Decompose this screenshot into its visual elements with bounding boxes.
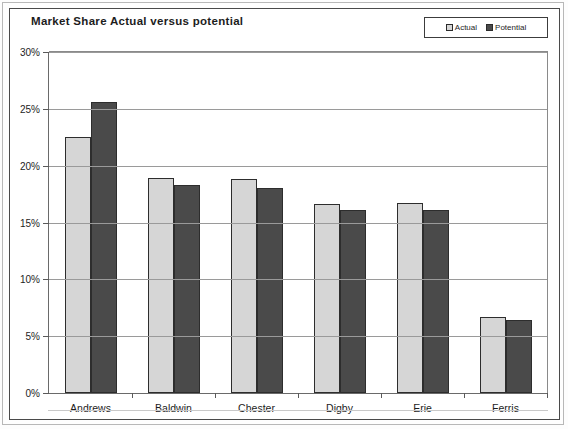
gridline bbox=[49, 336, 547, 337]
x-axis-tick bbox=[464, 393, 465, 398]
bar-baldwin-actual bbox=[148, 178, 174, 393]
legend-label-actual: Actual bbox=[455, 24, 477, 32]
x-axis-label: Digby bbox=[326, 402, 353, 414]
y-axis-tick bbox=[43, 223, 49, 224]
legend-swatch-potential-icon bbox=[486, 24, 493, 31]
y-axis-label: 10% bbox=[20, 274, 40, 285]
bar-digby-actual bbox=[314, 204, 340, 393]
x-axis-tick bbox=[298, 393, 299, 398]
y-axis-label: 20% bbox=[20, 160, 40, 171]
plot-area: AndrewsBaldwinChesterDigbyErieFerris 0%5… bbox=[48, 52, 547, 394]
x-axis-label: Erie bbox=[413, 402, 432, 414]
x-axis-tick bbox=[215, 393, 216, 398]
y-axis-tick bbox=[43, 336, 49, 337]
bar-baldwin-potential bbox=[174, 185, 200, 393]
x-axis-tick bbox=[381, 393, 382, 398]
x-axis-label: Chester bbox=[238, 402, 275, 414]
y-axis-label: 30% bbox=[20, 47, 40, 58]
bar-ferris-potential bbox=[506, 320, 532, 393]
gridline bbox=[49, 279, 547, 280]
gridline bbox=[49, 109, 547, 110]
y-axis-tick bbox=[43, 109, 49, 110]
bar-andrews-potential bbox=[91, 102, 117, 393]
y-axis-label: 5% bbox=[26, 331, 40, 342]
plot-right-border bbox=[547, 51, 548, 393]
bar-erie-potential bbox=[423, 210, 449, 393]
legend-item-potential: Potential bbox=[486, 24, 526, 32]
x-axis-label: Andrews bbox=[70, 402, 111, 414]
legend-label-potential: Potential bbox=[495, 24, 526, 32]
x-axis-tick bbox=[547, 393, 548, 398]
chart-title: Market Share Actual versus potential bbox=[31, 15, 243, 27]
y-axis-label: 0% bbox=[26, 388, 40, 399]
x-axis-label: Ferris bbox=[492, 402, 519, 414]
legend-item-actual: Actual bbox=[446, 24, 477, 32]
y-axis-tick bbox=[43, 166, 49, 167]
bar-ferris-actual bbox=[480, 317, 506, 393]
y-axis-tick bbox=[43, 52, 49, 53]
y-axis-tick bbox=[43, 393, 49, 394]
bar-andrews-actual bbox=[65, 137, 91, 393]
x-axis-tick bbox=[132, 393, 133, 398]
bar-digby-potential bbox=[340, 210, 366, 393]
bar-chester-actual bbox=[231, 179, 257, 393]
x-axis-label: Baldwin bbox=[155, 402, 192, 414]
y-axis-label: 25% bbox=[20, 103, 40, 114]
bar-erie-actual bbox=[397, 203, 423, 393]
gridline bbox=[49, 223, 547, 224]
chart-screenshot: Market Share Actual versus potential Act… bbox=[0, 0, 568, 429]
chart-legend: Actual Potential bbox=[424, 17, 548, 38]
gridline bbox=[49, 166, 547, 167]
legend-swatch-actual-icon bbox=[446, 24, 453, 31]
y-axis-label: 15% bbox=[20, 217, 40, 228]
axis-baseline-shadow bbox=[48, 410, 548, 411]
bar-chester-potential bbox=[257, 188, 283, 393]
gridline bbox=[49, 52, 547, 53]
y-axis-tick bbox=[43, 279, 49, 280]
